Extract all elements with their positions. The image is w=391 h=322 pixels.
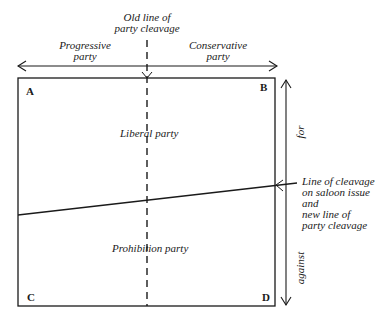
corner-label-a: A [26,85,34,97]
against-label: against [294,246,306,290]
old-cleavage-label-line2: party cleavage [100,23,194,34]
corner-label-b: B [260,81,267,93]
saloon-cleavage-annotation: Line of cleavage on saloon issue and new… [302,176,375,231]
conservative-party-label: Conservative party [178,40,258,62]
old-cleavage-label: Old line of party cleavage [100,12,194,34]
corner-label-c: C [27,291,35,303]
annotation-line5: party cleavage [302,220,375,231]
corner-label-d: D [262,291,270,303]
saloon-cleavage-line [18,183,297,215]
liberal-party-label: Liberal party [120,128,178,139]
prohibition-party-label: Prohibition party [112,243,188,254]
for-label: for [294,122,306,142]
conservative-party-line2: party [178,51,258,62]
progressive-party-label: Progressive party [50,40,120,62]
vertical-axis-arrow [281,80,291,305]
progressive-party-line2: party [50,51,120,62]
